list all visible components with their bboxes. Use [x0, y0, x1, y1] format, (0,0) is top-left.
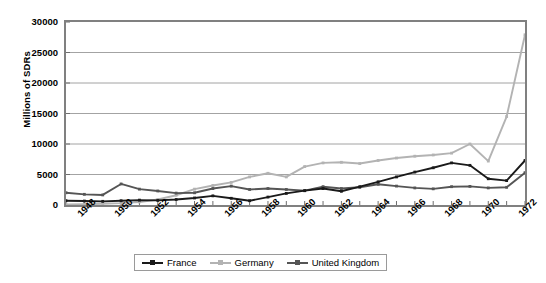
data-point	[248, 188, 251, 191]
legend-label: Germany	[235, 257, 274, 268]
plot-area	[64, 20, 527, 207]
data-point	[413, 187, 416, 190]
legend-item: France	[142, 257, 197, 268]
data-point	[487, 187, 490, 190]
data-point	[524, 171, 525, 174]
data-point	[505, 115, 508, 118]
data-point	[101, 200, 104, 203]
data-point	[524, 159, 525, 162]
series-line-germany	[66, 35, 525, 205]
data-point	[469, 185, 472, 188]
chart-legend: FranceGermanyUnited Kingdom	[134, 254, 387, 271]
x-tick-label: 1950	[112, 211, 120, 219]
data-point	[450, 162, 453, 165]
x-tick-label: 1972	[516, 211, 524, 219]
x-tick-label: 1966	[405, 211, 413, 219]
legend-label: France	[167, 257, 197, 268]
data-point	[138, 188, 141, 191]
data-point	[395, 176, 398, 179]
y-tick-label: 15000	[4, 109, 58, 119]
data-point	[66, 199, 67, 202]
data-point	[322, 187, 325, 190]
data-point	[267, 172, 270, 175]
data-point	[487, 160, 490, 163]
data-point	[487, 177, 490, 180]
x-tick-label: 1964	[369, 211, 377, 219]
y-tick-label: 30000	[4, 17, 58, 27]
x-tick-label: 1956	[222, 211, 230, 219]
data-point	[285, 176, 288, 179]
data-point	[101, 194, 104, 197]
data-point	[322, 162, 325, 165]
data-point	[340, 190, 343, 193]
data-point	[469, 164, 472, 167]
legend-swatch-icon	[287, 259, 308, 267]
legend-swatch-icon	[210, 259, 231, 267]
data-point	[377, 183, 380, 186]
data-point	[66, 203, 67, 205]
data-point	[156, 190, 159, 193]
chart-container: Millions of SDRs 05000100001500020000250…	[0, 0, 546, 283]
data-point	[66, 191, 67, 194]
data-point	[120, 183, 123, 186]
data-point	[285, 192, 288, 195]
data-point	[285, 188, 288, 191]
chart-svg	[66, 22, 525, 205]
x-tick-label: 1952	[148, 211, 156, 219]
legend-item: Germany	[210, 257, 274, 268]
data-point	[358, 162, 361, 165]
data-point	[505, 179, 508, 182]
legend-label: United Kingdom	[312, 257, 380, 268]
legend-item: United Kingdom	[287, 257, 380, 268]
data-point	[175, 192, 178, 195]
legend-swatch-icon	[142, 259, 163, 267]
x-tick-label: 1960	[295, 211, 303, 219]
data-point	[524, 33, 525, 36]
data-point	[267, 187, 270, 190]
data-point	[358, 185, 361, 188]
data-point	[505, 186, 508, 189]
y-tick-label: 20000	[4, 78, 58, 88]
data-point	[193, 191, 196, 194]
data-point	[101, 202, 104, 205]
data-point	[432, 166, 435, 169]
data-point	[450, 152, 453, 155]
data-point	[211, 187, 214, 190]
data-point	[193, 188, 196, 191]
data-point	[230, 185, 233, 188]
x-tick-label: 1968	[442, 211, 450, 219]
y-tick-label: 10000	[4, 139, 58, 149]
y-tick-label: 5000	[4, 170, 58, 180]
data-point	[175, 198, 178, 201]
data-point	[230, 181, 233, 184]
data-point	[340, 161, 343, 164]
data-point	[303, 189, 306, 192]
x-tick-label: 1954	[185, 211, 193, 219]
data-point	[303, 165, 306, 168]
y-tick-label: 25000	[4, 48, 58, 58]
data-point	[395, 157, 398, 160]
data-point	[377, 180, 380, 183]
data-point	[432, 187, 435, 190]
data-point	[138, 199, 141, 202]
data-point	[377, 159, 380, 162]
data-point	[450, 185, 453, 188]
data-point	[83, 193, 86, 196]
x-tick-label: 1948	[75, 211, 83, 219]
x-tick-label: 1962	[332, 211, 340, 219]
data-point	[469, 143, 472, 146]
data-point	[413, 171, 416, 174]
data-point	[248, 199, 251, 202]
data-point	[432, 154, 435, 157]
data-point	[248, 176, 251, 179]
data-point	[340, 187, 343, 190]
x-axis-tick-labels: 1948195019521954195619581960196219641966…	[0, 207, 546, 253]
data-point	[413, 155, 416, 158]
data-point	[395, 185, 398, 188]
x-tick-label: 1970	[479, 211, 487, 219]
data-point	[211, 184, 214, 187]
x-tick-label: 1958	[259, 211, 267, 219]
data-point	[267, 196, 270, 199]
data-point	[211, 194, 214, 197]
